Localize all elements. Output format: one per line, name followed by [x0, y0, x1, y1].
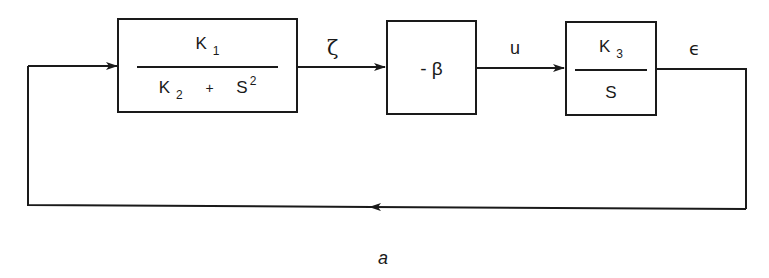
block-k3-over-s: K3 S [565, 21, 657, 116]
block3-denominator: S [567, 83, 655, 103]
block1-numerator: K1 [119, 34, 296, 54]
signal-epsilon-label: ϵ [689, 38, 700, 59]
k3-sub: 3 [616, 47, 623, 61]
block1-fraction-bar [137, 66, 278, 68]
figure-caption: a [378, 248, 388, 269]
k1-sub: 1 [213, 44, 220, 58]
feedback-path-right [656, 69, 746, 209]
block3-numerator: K3 [567, 37, 655, 57]
block-k1-over-k2-plus-s2: K1 K2 + S2 [117, 18, 298, 113]
feedback-arrow [370, 207, 746, 209]
s-sup: 2 [250, 74, 257, 88]
k3-base: K [599, 37, 610, 56]
k2-base: K [159, 78, 170, 97]
k2-sub: 2 [176, 88, 183, 102]
k1-base: K [195, 34, 206, 53]
block1-denominator: K2 + S2 [119, 78, 296, 98]
block2-label: - β [388, 58, 475, 80]
signal-zeta-label: ζ [327, 36, 338, 60]
plus-operator: + [205, 80, 213, 96]
s-base: S [236, 78, 247, 97]
block3-fraction-bar [575, 69, 647, 71]
block-minus-beta: - β [386, 20, 477, 115]
signal-u-label: u [510, 38, 520, 59]
